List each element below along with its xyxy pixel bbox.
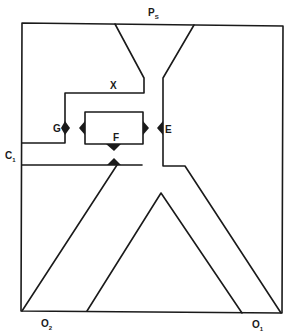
port-f-diamond bbox=[106, 144, 121, 151]
label-g: G bbox=[53, 123, 61, 134]
splitter-triangle bbox=[87, 193, 242, 313]
label-x: X bbox=[110, 80, 117, 91]
label-f: F bbox=[113, 132, 119, 143]
label-output-2: O2 bbox=[41, 318, 53, 331]
port-e-left-diamond bbox=[143, 121, 149, 135]
port-c-diamond bbox=[107, 158, 121, 165]
label-control: C1 bbox=[5, 150, 16, 163]
port-g-right-diamond bbox=[79, 121, 85, 135]
diagram-canvas: PS X G F E C1 O2 O1 bbox=[0, 0, 289, 335]
label-supply: PS bbox=[148, 7, 159, 20]
port-g-left-diamond bbox=[61, 121, 70, 135]
port-e-right-diamond bbox=[157, 121, 163, 135]
label-e: E bbox=[165, 124, 172, 135]
right-channel-wall bbox=[163, 25, 281, 313]
output-2-diagonal bbox=[22, 165, 117, 311]
label-output-1: O1 bbox=[252, 319, 264, 332]
outer-boundary bbox=[21, 23, 283, 313]
